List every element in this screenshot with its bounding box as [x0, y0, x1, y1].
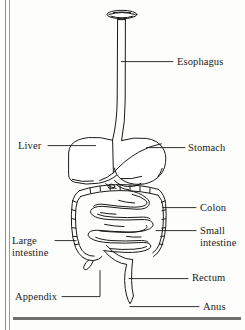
- rectum-shape: [104, 245, 133, 296]
- label-large-intestine: Large intestine: [12, 235, 48, 258]
- label-small-intestine-line2: intestine: [200, 237, 236, 249]
- leader-line-appendix: [62, 271, 100, 297]
- mouth-shape: [107, 10, 137, 18]
- label-stomach: Stomach: [188, 142, 225, 154]
- scanned-figure-page: Esophagus Liver Stomach Colon Small inte…: [0, 0, 245, 330]
- anus-shape: [127, 296, 134, 304]
- label-esophagus: Esophagus: [177, 56, 223, 68]
- label-rectum: Rectum: [192, 272, 225, 284]
- appendix-shape: [84, 260, 94, 270]
- esophagus-shape: [113, 19, 126, 141]
- label-large-intestine-line1: Large: [12, 235, 37, 246]
- label-anus: Anus: [203, 301, 226, 313]
- label-small-intestine-line1: Small: [200, 225, 225, 236]
- small-intestine-shape: [88, 190, 153, 252]
- label-large-intestine-line2: intestine: [12, 247, 48, 259]
- label-small-intestine: Small intestine: [200, 225, 236, 248]
- label-appendix: Appendix: [15, 291, 57, 303]
- label-liver: Liver: [18, 140, 41, 152]
- stomach-shape: [113, 138, 165, 184]
- label-colon: Colon: [200, 202, 226, 214]
- liver-shape: [69, 137, 117, 184]
